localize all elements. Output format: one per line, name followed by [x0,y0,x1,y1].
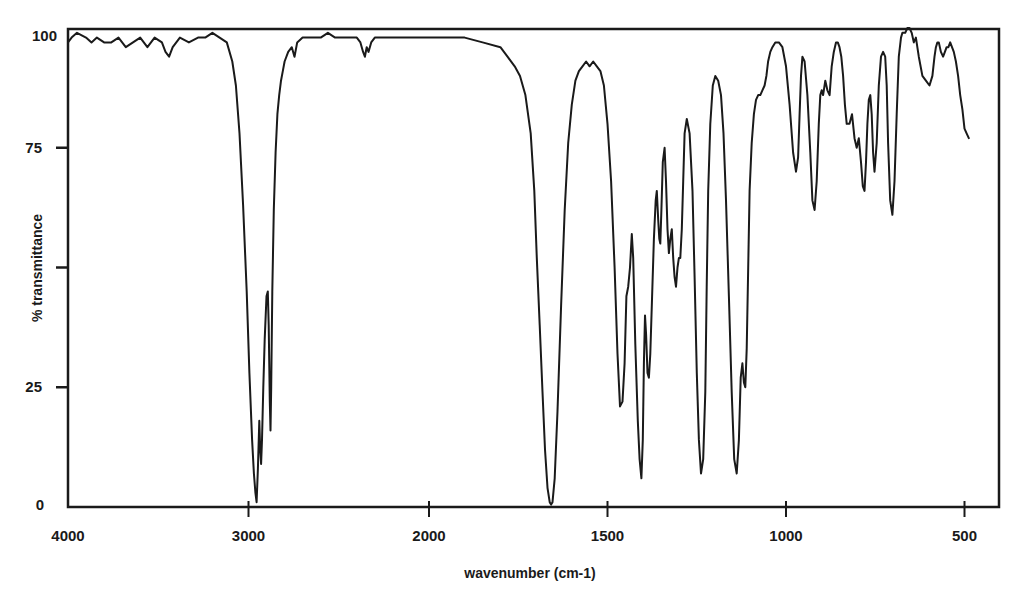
x-tick-label: 500 [952,527,977,544]
y-axis-title: % transmittance [29,214,45,322]
y-tick-label: 75 [25,139,42,156]
x-tick-label: 1500 [591,527,624,544]
x-tick-label: 4000 [51,527,84,544]
y-tick-label: 25 [25,378,42,395]
x-tick-label: 1000 [769,527,802,544]
plot-frame [68,29,999,507]
spectrum-line [68,28,969,505]
x-axis-title: wavenumber (cm-1) [463,565,595,581]
y-tick-label: 100 [32,27,57,44]
x-tick-label: 2000 [412,527,445,544]
x-tick-label: 3000 [232,527,265,544]
ir-spectrum-chart: 02575100 40003000200015001000500 wavenum… [0,0,1018,590]
y-tick-label: 0 [36,496,44,513]
